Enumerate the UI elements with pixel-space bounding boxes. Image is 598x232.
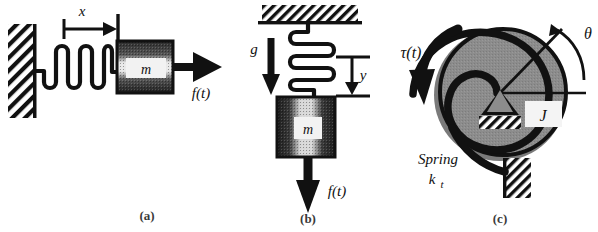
panel-a: m x f(t) (a)	[8, 3, 222, 223]
caption-a: (a)	[139, 208, 154, 223]
mass-block-b: m	[277, 97, 335, 157]
spring-label: Spring	[418, 151, 459, 167]
inertia-label-box: J	[525, 101, 562, 127]
hatched-ceiling	[258, 5, 362, 24]
displacement-label-b: y	[358, 67, 367, 83]
force-arrow-right: f(t)	[172, 52, 222, 102]
caption-b: (b)	[300, 211, 316, 226]
hatched-wall	[8, 24, 37, 118]
angle-label: θ	[584, 25, 592, 42]
displacement-dimension: x	[64, 3, 118, 42]
force-label-a: f(t)	[192, 85, 210, 102]
gravity-label-b: g	[250, 41, 258, 57]
gravity-arrow-down: g	[250, 38, 280, 95]
mass-block: m	[117, 41, 173, 93]
inertia-label: J	[539, 107, 547, 124]
coil-spring	[36, 46, 119, 88]
mass-label-a: m	[141, 62, 151, 77]
mass-label-b: m	[303, 122, 313, 137]
torque-label: τ(t)	[401, 44, 422, 62]
panel-b: g y m f(t) (b)	[250, 5, 370, 226]
spring-name-label: Spring k t	[418, 151, 459, 190]
spring-constant-subscript: t	[440, 178, 444, 190]
caption-c: (c)	[493, 211, 507, 226]
panel-c: θ J τ(t) Spring k t (c)	[401, 24, 592, 226]
displacement-dimension-b: y	[336, 57, 370, 96]
spring-constant-label: k	[429, 171, 436, 187]
displacement-label-a: x	[78, 3, 86, 19]
coil-spring-vertical	[290, 23, 334, 97]
mechanical-systems-figure: m x f(t) (a)	[0, 0, 598, 232]
force-label-b: f(t)	[328, 183, 346, 200]
hatched-ground	[479, 116, 521, 129]
force-arrow-down: f(t)	[296, 157, 346, 213]
hatched-anchor-block	[503, 158, 531, 198]
